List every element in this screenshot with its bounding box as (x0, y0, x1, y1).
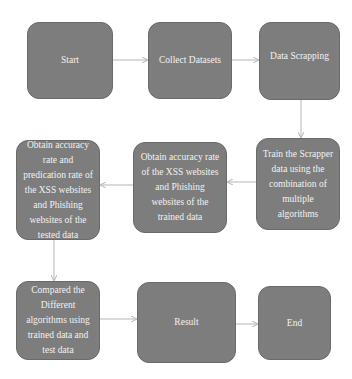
node-data-scrapping: Data Scrapping (259, 22, 340, 100)
node-result-label: Result (174, 315, 198, 330)
node-end: End (258, 286, 331, 360)
node-start-label: Start (61, 53, 79, 68)
node-compare-algorithms-label: Compared the Different algorithms using … (22, 283, 94, 358)
node-collect-datasets: Collect Datasets (148, 22, 232, 99)
node-tested-accuracy: Obtain accuracy rate and predication rat… (16, 140, 100, 240)
node-tested-accuracy-label: Obtain accuracy rate and predication rat… (22, 138, 94, 243)
node-end-label: End (287, 316, 302, 331)
node-compare-algorithms: Compared the Different algorithms using … (16, 281, 100, 360)
node-train-scrapper: Train the Scrapper data using the combin… (256, 138, 340, 230)
node-trained-accuracy-label: Obtain accuracy rate of the XSS websites… (139, 150, 221, 225)
node-start: Start (27, 22, 113, 99)
node-trained-accuracy: Obtain accuracy rate of the XSS websites… (133, 142, 227, 233)
node-collect-datasets-label: Collect Datasets (159, 53, 221, 68)
node-result: Result (137, 282, 236, 363)
node-train-scrapper-label: Train the Scrapper data using the combin… (262, 147, 334, 222)
node-data-scrapping-label: Data Scrapping (270, 49, 329, 64)
